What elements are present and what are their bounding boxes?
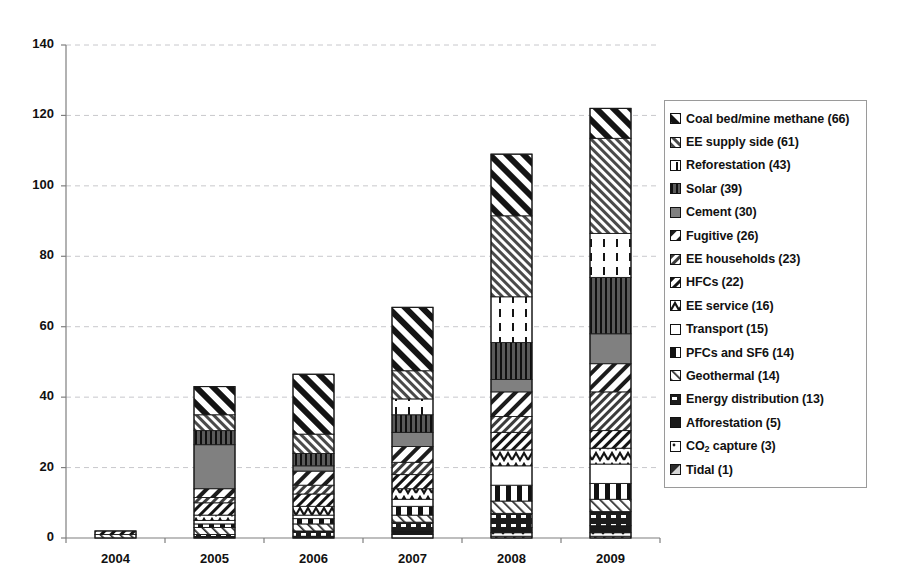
bar-segment-pfcs-sf6 [590,483,631,499]
bar-segment-afforestation [491,527,532,532]
legend-swatch-cement-icon [670,207,681,218]
legend-label: Geothermal (14) [686,369,780,383]
y-axis-tick-label: 60 [10,318,54,333]
bar-segment-coal-bed-mine-methane [491,154,532,216]
legend-item-hfcs[interactable]: HFCs (22) [670,271,860,294]
x-axis-tick-label-2005: 2005 [175,551,255,564]
bar-segment-reforestation [491,297,532,343]
legend-swatch-hfcs-icon [670,277,681,288]
bar-segment-hfcs [194,503,235,515]
legend-swatch-reforestation-icon [670,160,681,171]
bar-segment-ee-households [491,417,532,433]
bar-segment-fugitive [194,489,235,498]
bar-segment-pfcs-sf6 [491,485,532,501]
legend-item-coal-bed-mine-methane[interactable]: Coal bed/mine methane (66) [670,107,860,130]
bar-segment-afforestation [590,526,631,533]
bar-segment-ee-households [293,485,334,494]
legend-swatch-transport-icon [670,324,681,335]
y-axis-tick-label: 0 [10,529,54,544]
y-axis-tick-label: 20 [10,459,54,474]
legend-item-transport[interactable]: Transport (15) [670,318,860,341]
legend: Coal bed/mine methane (66)EE supply side… [664,100,867,488]
bar-segment-afforestation [392,531,433,535]
bar-segment-ee-supply-side [392,371,433,399]
legend-swatch-ee-service-icon [670,300,681,311]
legend-swatch-ee-supply-side-icon [670,137,681,148]
x-axis-tick-label-2004: 2004 [76,551,156,564]
legend-label: Cement (30) [686,205,756,219]
bar-segment-hfcs [293,494,334,506]
legend-item-solar[interactable]: Solar (39) [670,177,860,200]
bar-segment-solar [491,343,532,380]
bar-segment-fugitive [491,392,532,417]
bar-segment-ee-households [590,392,631,431]
legend-label: Transport (15) [686,322,768,336]
bar-segment-transport [392,499,433,506]
bar-segment-cement [491,380,532,392]
bar-segment-ee-service [194,515,235,520]
bar-segment-hfcs [392,475,433,489]
legend-item-ee-service[interactable]: EE service (16) [670,294,860,317]
bar-2007 [392,307,433,538]
legend-item-cement[interactable]: Cement (30) [670,201,860,224]
bar-segment-reforestation [392,399,433,415]
bar-segment-geothermal [392,515,433,522]
bar-segment-coal-bed-mine-methane [392,307,433,370]
bar-segment-energy-distribution [491,513,532,527]
legend-item-afforestation[interactable]: Afforestation (5) [670,411,860,434]
bar-series-group [95,108,631,538]
bar-segment-pfcs-sf6 [392,506,433,515]
bar-segment-fugitive [590,364,631,392]
bar-segment-fugitive [293,471,334,485]
bar-segment-solar [392,415,433,433]
legend-item-energy-distribution[interactable]: Energy distribution (13) [670,388,860,411]
bar-segment-fugitive [392,446,433,462]
legend-label: Reforestation (43) [686,158,790,172]
bar-segment-co2-capture [590,533,631,537]
legend-item-co2-capture[interactable]: CO2 capture (3) [670,434,860,457]
bar-segment-coal-bed-mine-methane [194,387,235,415]
legend-item-geothermal[interactable]: Geothermal (14) [670,364,860,387]
y-axis-tick-label: 120 [10,106,54,121]
legend-item-ee-households[interactable]: EE households (23) [670,247,860,270]
bar-segment-ee-supply-side [293,434,334,453]
y-axis-tick-label: 40 [10,388,54,403]
stacked-bar-chart: 020406080100120140 200420052006200720082… [0,0,900,564]
legend-label: EE households (23) [686,252,800,266]
legend-item-fugitive[interactable]: Fugitive (26) [670,224,860,247]
legend-label: Tidal (1) [686,463,733,477]
legend-label: CO2 capture (3) [686,439,776,453]
bar-segment-pfcs-sf6 [194,524,235,528]
legend-label: Coal bed/mine methane (66) [686,112,849,126]
bar-segment-geothermal [590,499,631,511]
legend-swatch-coal-bed-mine-methane-icon [670,113,681,124]
legend-item-tidal[interactable]: Tidal (1) [670,458,860,481]
legend-swatch-solar-icon [670,183,681,194]
legend-item-pfcs-sf6[interactable]: PFCs and SF6 (14) [670,341,860,364]
legend-swatch-ee-households-icon [670,254,681,265]
bar-segment-hfcs [590,431,631,449]
bar-segment-geothermal [194,527,235,534]
legend-swatch-co2-capture-icon [670,441,681,452]
y-axis-tick-label: 80 [10,247,54,262]
legend-item-reforestation[interactable]: Reforestation (43) [670,154,860,177]
legend-swatch-tidal-icon [670,464,681,475]
bar-segment-pfcs-sf6 [293,519,334,524]
bar-segment-cement [194,445,235,489]
bar-segment-reforestation [590,233,631,277]
legend-swatch-energy-distribution-icon [670,394,681,405]
bar-2006 [293,374,334,538]
x-axis-tick-label-2006: 2006 [274,551,354,564]
bar-2008 [491,154,532,538]
axis-lines [61,45,660,543]
bar-segment-ee-households [194,498,235,503]
bar-segment-transport [491,466,532,485]
bar-segment-geothermal [491,501,532,513]
legend-item-ee-supply-side[interactable]: EE supply side (61) [670,130,860,153]
bar-segment-hfcs [491,432,532,450]
bar-2005 [194,387,235,538]
legend-label: Energy distribution (13) [686,392,824,406]
legend-swatch-fugitive-icon [670,230,681,241]
bar-segment-ee-supply-side [194,415,235,431]
bar-segment-energy-distribution [392,522,433,531]
